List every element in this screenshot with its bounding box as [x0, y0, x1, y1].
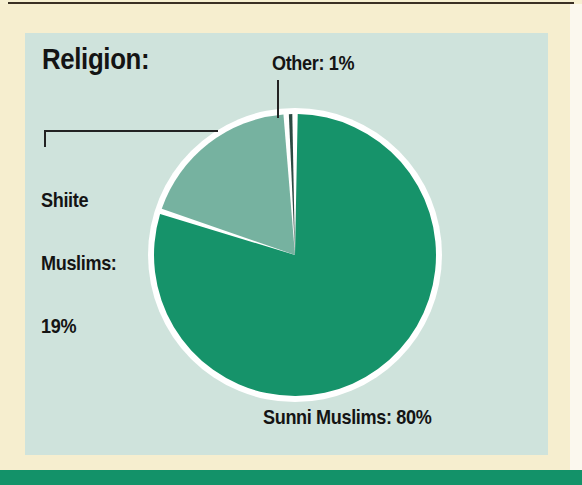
shiite-leader-line	[44, 130, 218, 132]
pie-chart	[130, 100, 460, 420]
slice-label-shiite-line2: Muslims:	[41, 252, 117, 273]
slice-label-other: Other: 1%	[272, 52, 354, 73]
other-leader-line	[277, 80, 279, 118]
paper-right-edge	[570, 4, 582, 470]
figure-page: Religion: Other: 1% Shiite Muslims: 19% …	[0, 0, 582, 485]
pie-slices	[148, 108, 442, 402]
bottom-green-band	[0, 470, 582, 485]
page-title: Religion:	[42, 44, 149, 74]
slice-label-shiite-line3: 19%	[41, 315, 117, 336]
slice-label-shiite: Shiite Muslims: 19%	[41, 147, 117, 378]
slice-label-sunni: Sunni Muslims: 80%	[263, 406, 431, 427]
slice-label-shiite-line1: Shiite	[41, 189, 117, 210]
shiite-leader-tick	[44, 130, 46, 147]
